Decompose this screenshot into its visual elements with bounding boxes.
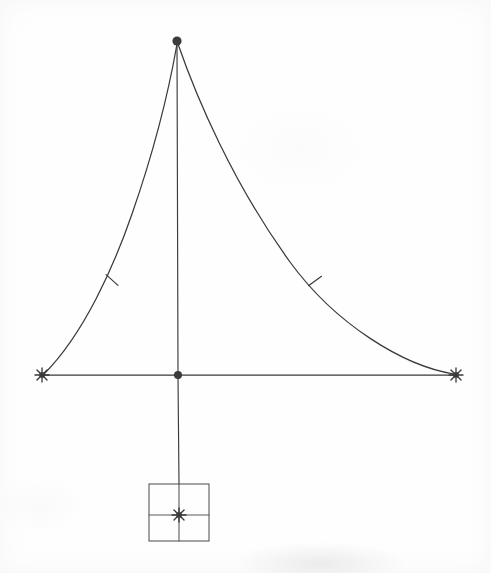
- sketch-canvas: [0, 0, 491, 573]
- box-center-marker: [172, 508, 186, 522]
- paper-background: [0, 0, 491, 573]
- right-endpoint-marker: [449, 368, 463, 382]
- apex-node: [172, 36, 181, 45]
- left-endpoint-marker: [35, 368, 49, 382]
- center-node: [174, 371, 182, 379]
- figure-root: [0, 0, 491, 573]
